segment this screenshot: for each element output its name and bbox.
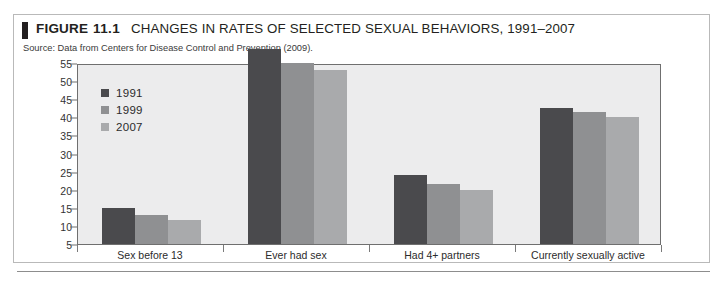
- bar-1999: [427, 184, 460, 244]
- x-axis-category-label: Had 4+ partners: [404, 249, 480, 261]
- bar-2007: [168, 220, 201, 244]
- bar-1991: [102, 208, 135, 244]
- plot-area: 199119992007: [77, 64, 661, 245]
- bar-group: [102, 65, 201, 244]
- y-axis-tick-mark: [70, 154, 77, 155]
- x-axis-separator: [515, 245, 516, 252]
- y-axis-tick-mark: [70, 190, 77, 191]
- x-axis-category-label: Currently sexually active: [531, 249, 645, 261]
- y-axis-tick-mark: [70, 100, 77, 101]
- y-axis-tick-labels: 555045403530252015105: [32, 15, 72, 264]
- bars-layer: [78, 65, 660, 244]
- bar-1999: [135, 215, 168, 244]
- y-axis-tick-mark: [70, 64, 77, 65]
- y-axis-tick-mark: [70, 208, 77, 209]
- y-axis-tick-mark: [70, 82, 77, 83]
- bar-1999: [281, 63, 314, 244]
- x-axis-end-tick: [661, 245, 662, 252]
- bar-group: [248, 65, 347, 244]
- x-axis-separator: [223, 245, 224, 252]
- bar-group: [394, 65, 493, 244]
- figure-bottom-rule: [17, 271, 710, 272]
- bar-1991: [248, 49, 281, 244]
- y-axis-tick-mark: [70, 136, 77, 137]
- y-axis-tick-mark: [70, 172, 77, 173]
- bar-2007: [460, 190, 493, 244]
- bar-1999: [573, 112, 606, 244]
- x-axis-end-tick: [77, 245, 78, 252]
- y-axis-tick-mark: [70, 245, 77, 246]
- x-axis-separator: [369, 245, 370, 252]
- x-axis-category-label: Ever had sex: [265, 249, 326, 261]
- figure-frame: FIGURE 11.1 CHANGES IN RATES OF SELECTED…: [13, 14, 710, 263]
- bar-1991: [394, 175, 427, 244]
- y-axis-tick-mark: [70, 118, 77, 119]
- bar-2007: [606, 117, 639, 244]
- bar-1991: [540, 108, 573, 244]
- chart: 555045403530252015105 199119992007 Sex b…: [14, 15, 711, 264]
- y-axis-tick-mark: [70, 226, 77, 227]
- bar-2007: [314, 70, 347, 244]
- x-axis-category-label: Sex before 13: [117, 249, 182, 261]
- bar-group: [540, 65, 639, 244]
